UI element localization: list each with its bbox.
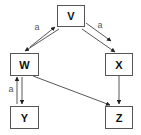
edge-label: a bbox=[97, 20, 102, 30]
nodes-layer: VWXYZ bbox=[11, 6, 133, 129]
directed-graph-diagram: aaa VWXYZ bbox=[0, 0, 141, 135]
node-label: Z bbox=[116, 112, 123, 124]
node-label: W bbox=[19, 59, 30, 71]
node-y: Y bbox=[11, 107, 39, 129]
edge-label: a bbox=[8, 84, 13, 94]
node-label: V bbox=[67, 10, 75, 22]
node-label: X bbox=[115, 59, 123, 71]
edge-label: a bbox=[34, 22, 39, 32]
node-x: X bbox=[106, 54, 133, 76]
node-v: V bbox=[58, 6, 85, 27]
node-z: Z bbox=[106, 107, 133, 129]
node-w: W bbox=[11, 54, 39, 76]
node-label: Y bbox=[21, 112, 29, 124]
edge-v-to-w-arrow bbox=[25, 29, 59, 51]
edge-w-to-z-arrow bbox=[33, 76, 110, 105]
